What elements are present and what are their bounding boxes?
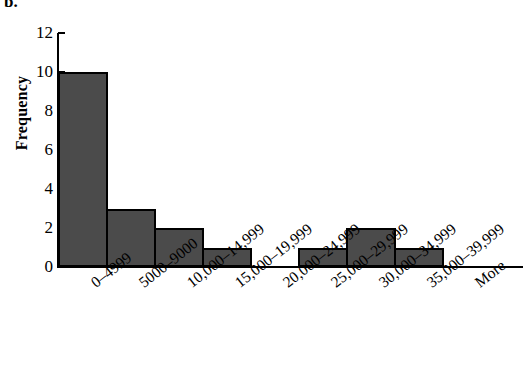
- x-axis-tick-label: 0–4999: [88, 278, 98, 290]
- y-axis-tick-label: 2: [3, 219, 53, 236]
- y-axis-tick-label: 4: [3, 180, 53, 197]
- y-axis-tick-label: 6: [3, 141, 53, 158]
- y-axis-tick-label: 10: [3, 63, 53, 80]
- x-axis-tick-label: 5000–9000: [136, 278, 146, 290]
- x-axis-tick-label: 15,000–19,999: [232, 278, 242, 290]
- x-axis-tick-label: 10,000–14,999: [184, 278, 194, 290]
- x-axis-tick-label: 30,000–34,999: [376, 278, 386, 290]
- x-axis-tick-label: 20,000–24,999: [280, 278, 290, 290]
- y-axis-tick-label: 8: [3, 102, 53, 119]
- bars-layer: [58, 33, 490, 267]
- x-axis-tick-labels: 0–49995000–900010,000–14,99915,000–19,99…: [0, 266, 528, 389]
- x-axis-tick-label: More: [472, 278, 482, 290]
- histogram-bar: [58, 72, 108, 267]
- y-axis-tick-label: 12: [3, 24, 53, 41]
- histogram-figure: b. Frequency 024681012 0–49995000–900010…: [0, 0, 528, 389]
- x-axis-tick-label: 25,000–29,999: [328, 278, 338, 290]
- x-axis-tick-label: 35,000–39,999: [424, 278, 434, 290]
